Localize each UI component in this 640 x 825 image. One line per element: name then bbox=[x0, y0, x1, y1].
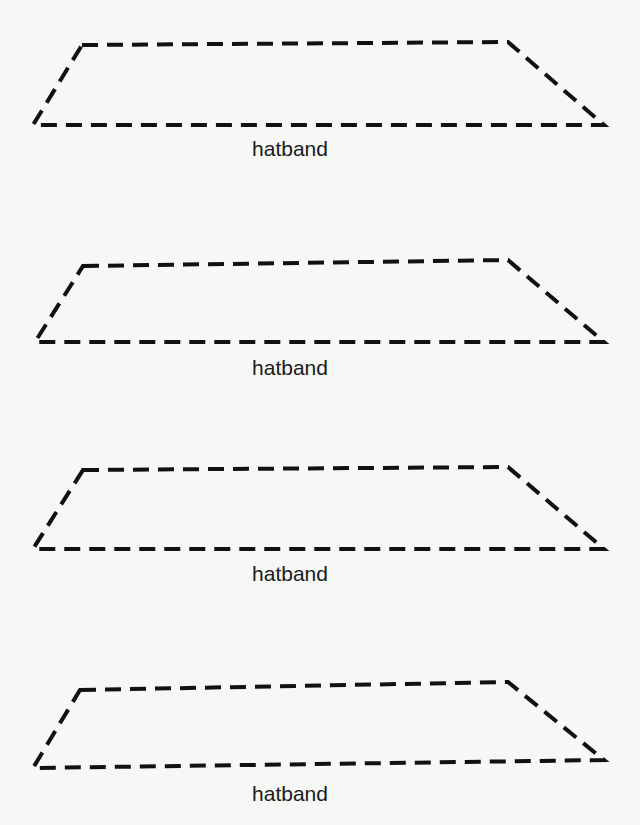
hatband-outline-3 bbox=[33, 467, 604, 549]
hatband-outline-4 bbox=[33, 682, 604, 768]
hatband-label-2: hatband bbox=[252, 356, 328, 380]
hatband-label-3: hatband bbox=[252, 562, 328, 586]
hatband-label-4: hatband bbox=[252, 782, 328, 806]
hatband-outline-2 bbox=[35, 260, 604, 342]
diagram-canvas bbox=[0, 0, 640, 825]
hatband-label-1: hatband bbox=[252, 137, 328, 161]
hatband-outline-1 bbox=[33, 42, 604, 125]
